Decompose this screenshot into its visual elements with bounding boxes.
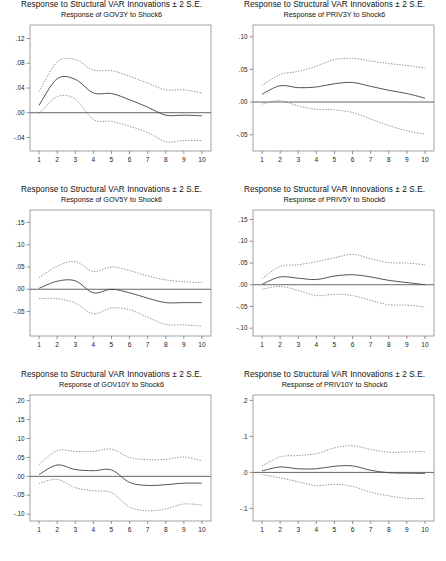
- y-axis-tick-label: .08: [16, 59, 25, 66]
- x-axis-tick-label: 5: [333, 341, 337, 348]
- panel-title-gov5y: Response to Structural VAR Innovations ±…: [0, 185, 223, 195]
- x-axis-tick-label: 1: [260, 526, 264, 533]
- x-axis-tick-label: 6: [128, 156, 132, 163]
- panel-subtitle-gov5y: Response of GOV5Y to Shock6: [0, 195, 223, 204]
- series-lower_2se: [39, 95, 202, 142]
- x-axis-tick-label: 9: [182, 341, 186, 348]
- y-axis-tick-label: -.04: [13, 134, 24, 141]
- x-axis-tick-label: 10: [198, 341, 206, 348]
- chart-priv5y: .15.10.05.00-.05-.1012345678910: [223, 204, 446, 356]
- x-axis-tick-label: 2: [55, 156, 59, 163]
- series-upper_2se: [262, 446, 425, 466]
- y-axis-tick-label: .10: [239, 33, 248, 40]
- y-axis-tick-label: .15: [239, 216, 248, 223]
- chart-priv3y: .10.05.00-.0512345678910: [223, 19, 446, 171]
- x-axis-tick-label: 1: [37, 341, 41, 348]
- x-axis-tick-label: 7: [146, 341, 150, 348]
- x-axis-tick-label: 8: [164, 156, 168, 163]
- x-axis-tick-label: 10: [198, 526, 206, 533]
- panel-priv5y: Response to Structural VAR Innovations ±…: [223, 185, 446, 370]
- panel-gov10y: Response to Structural VAR Innovations ±…: [0, 370, 223, 561]
- x-axis-tick-label: 3: [73, 156, 77, 163]
- plot-frame: [30, 395, 211, 521]
- y-axis-tick-label: .05: [239, 66, 248, 73]
- series-lower_2se: [262, 286, 425, 306]
- x-axis-tick-label: 8: [164, 526, 168, 533]
- panel-subtitle-gov3y: Response of GOV3Y to Shock6: [0, 10, 223, 19]
- y-axis-tick-label: .00: [239, 281, 248, 288]
- panel-subtitle-priv10y: Response of PRIV10Y to Shock6: [223, 380, 446, 389]
- x-axis-tick-label: 5: [110, 341, 114, 348]
- x-axis-tick-label: 9: [182, 526, 186, 533]
- y-axis-tick-label: .05: [16, 454, 25, 461]
- x-axis-tick-label: 6: [128, 526, 132, 533]
- chart-priv10y: .2.1.0-.112345678910: [223, 389, 446, 541]
- x-axis-tick-label: 6: [351, 341, 355, 348]
- panel-gov5y: Response to Structural VAR Innovations ±…: [0, 185, 223, 370]
- x-axis-tick-label: 3: [73, 526, 77, 533]
- x-axis-tick-label: 9: [405, 526, 409, 533]
- panel-title-gov3y: Response to Structural VAR Innovations ±…: [0, 0, 223, 10]
- x-axis-tick-label: 7: [369, 156, 373, 163]
- series-lower_2se: [262, 475, 425, 499]
- panel-subtitle-gov10y: Response of GOV10Y to Shock6: [0, 380, 223, 389]
- series-response: [39, 76, 202, 115]
- x-axis-tick-label: 4: [315, 526, 319, 533]
- y-axis-tick-label: -.1: [240, 505, 248, 512]
- x-axis-tick-label: 4: [92, 341, 96, 348]
- y-axis-tick-label: .12: [16, 35, 25, 42]
- x-axis-tick-label: 3: [296, 341, 300, 348]
- x-axis-tick-label: 2: [55, 526, 59, 533]
- x-axis-tick-label: 10: [198, 156, 206, 163]
- panel-title-priv10y: Response to Structural VAR Innovations ±…: [223, 370, 446, 380]
- plot-frame: [30, 210, 211, 336]
- panel-title-gov10y: Response to Structural VAR Innovations ±…: [0, 370, 223, 380]
- y-axis-tick-label: .05: [16, 263, 25, 270]
- series-upper_2se: [39, 449, 202, 465]
- x-axis-tick-label: 6: [351, 156, 355, 163]
- y-axis-tick-label: -.05: [236, 303, 247, 310]
- x-axis-tick-label: 10: [421, 156, 429, 163]
- x-axis-tick-label: 10: [421, 526, 429, 533]
- series-response: [262, 82, 425, 98]
- chart-gov5y: .15.10.05.00-.0512345678910: [0, 204, 223, 356]
- x-axis-tick-label: 4: [315, 156, 319, 163]
- x-axis-tick-label: 8: [387, 526, 391, 533]
- x-axis-tick-label: 1: [37, 156, 41, 163]
- y-axis-tick-label: .00: [16, 109, 25, 116]
- panel-gov3y: Response to Structural VAR Innovations ±…: [0, 0, 223, 185]
- y-axis-tick-label: .05: [239, 259, 248, 266]
- y-axis-tick-label: -.05: [13, 491, 24, 498]
- y-axis-tick-label: .00: [239, 98, 248, 105]
- x-axis-tick-label: 4: [315, 341, 319, 348]
- y-axis-tick-label: .00: [16, 285, 25, 292]
- panel-title-priv5y: Response to Structural VAR Innovations ±…: [223, 185, 446, 195]
- series-response: [262, 275, 425, 285]
- chart-gov3y: .12.08.04.00-.0412345678910: [0, 19, 223, 171]
- x-axis-tick-label: 8: [387, 341, 391, 348]
- x-axis-tick-label: 4: [92, 156, 96, 163]
- series-upper_2se: [262, 58, 425, 85]
- x-axis-tick-label: 3: [296, 156, 300, 163]
- irf-panel-grid: Response to Structural VAR Innovations ±…: [0, 0, 446, 561]
- x-axis-tick-label: 7: [369, 526, 373, 533]
- x-axis-tick-label: 6: [351, 526, 355, 533]
- x-axis-tick-label: 1: [37, 526, 41, 533]
- plot-frame: [253, 210, 434, 336]
- x-axis-tick-label: 3: [73, 341, 77, 348]
- x-axis-tick-label: 7: [146, 156, 150, 163]
- plot-frame: [30, 25, 211, 151]
- series-response: [39, 465, 202, 486]
- x-axis-tick-label: 10: [421, 341, 429, 348]
- x-axis-tick-label: 6: [128, 341, 132, 348]
- y-axis-tick-label: .15: [16, 416, 25, 423]
- panel-subtitle-priv5y: Response of PRIV5Y to Shock6: [223, 195, 446, 204]
- y-axis-tick-label: .0: [242, 469, 248, 476]
- y-axis-tick-label: -.10: [236, 324, 247, 331]
- y-axis-tick-label: .1: [242, 433, 248, 440]
- x-axis-tick-label: 7: [369, 341, 373, 348]
- x-axis-tick-label: 5: [110, 526, 114, 533]
- plot-frame: [253, 395, 434, 521]
- x-axis-tick-label: 2: [278, 156, 282, 163]
- y-axis-tick-label: -.10: [13, 510, 24, 517]
